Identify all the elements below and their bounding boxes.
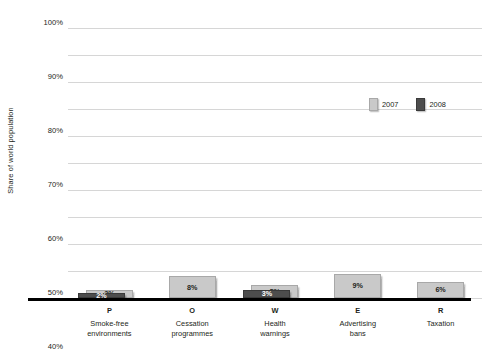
bar-2007-o: 8% [169, 276, 216, 298]
category-name-line: Advertising [316, 319, 399, 330]
bar-2007-r: 6% [417, 282, 464, 298]
legend-swatch-2007 [369, 98, 378, 111]
y-axis-tick-label: 40% [48, 342, 63, 352]
x-axis-category-label: EAdvertisingbans [316, 306, 399, 340]
y-axis-title-text: Share of world population [6, 107, 15, 193]
chart-legend: 20072008 [369, 98, 446, 111]
y-axis-tick-label: 60% [48, 234, 63, 244]
category-name-line: warnings [234, 329, 317, 340]
bar-value-label: 6% [435, 286, 445, 293]
category-name-line: programmes [151, 329, 234, 340]
bars-layer: 3%2%8%5%3%9%6% [68, 28, 482, 298]
bar-chart: Share of world population 0%10%20%30%40%… [0, 0, 489, 354]
x-axis-category-label: PSmoke-freeenvironments [68, 306, 151, 340]
category-letter: O [151, 306, 234, 317]
x-axis-category-label: RTaxation [399, 306, 482, 329]
legend-label: 2008 [429, 100, 445, 109]
y-axis-tick-label: 90% [48, 72, 63, 82]
y-axis-tick-label: 50% [48, 288, 63, 298]
bar-value-label: 8% [187, 284, 197, 291]
y-axis-tick-label: 80% [48, 126, 63, 136]
y-axis-tick-label: 100% [44, 18, 63, 28]
category-name-line: Cessation [151, 319, 234, 330]
bar-group: 3%2% [68, 28, 151, 298]
legend-item-2008[interactable]: 2008 [416, 98, 445, 111]
bar-value-label: 3% [262, 290, 272, 297]
x-axis-category-label: OCessationprogrammes [151, 306, 234, 340]
bar-group: 5%3% [234, 28, 317, 298]
legend-item-2007[interactable]: 2007 [369, 98, 398, 111]
category-name-line: Health [234, 319, 317, 330]
legend-swatch-2008 [416, 98, 425, 111]
category-name-line: Taxation [399, 319, 482, 330]
category-letter: P [68, 306, 151, 317]
category-name-line: environments [68, 329, 151, 340]
x-axis-labels: PSmoke-freeenvironmentsOCessationprogram… [68, 306, 482, 352]
bar-2008-w: 3% [243, 290, 290, 298]
legend-label: 2007 [382, 100, 398, 109]
bar-value-label: 2% [96, 292, 106, 299]
bar-group: 8% [151, 28, 234, 298]
bar-2007-e: 9% [334, 274, 381, 298]
category-letter: W [234, 306, 317, 317]
category-name-line: bans [316, 329, 399, 340]
bar-value-label: 9% [353, 282, 363, 289]
y-axis-title: Share of world population [0, 0, 20, 300]
bar-group: 9% [316, 28, 399, 298]
category-name-line: Smoke-free [68, 319, 151, 330]
bar-2008-p: 2% [78, 293, 125, 298]
x-axis-line [28, 298, 471, 301]
y-axis-tick-label: 70% [48, 180, 63, 190]
x-axis-category-label: WHealthwarnings [234, 306, 317, 340]
category-letter: R [399, 306, 482, 317]
bar-group: 6% [399, 28, 482, 298]
category-letter: E [316, 306, 399, 317]
